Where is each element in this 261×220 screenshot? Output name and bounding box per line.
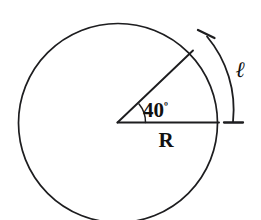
- geometry-figure-svg: 40º R ℓ: [0, 0, 261, 220]
- arc-length-label: ℓ: [235, 57, 245, 82]
- radius-label: R: [158, 128, 174, 152]
- circle-arc-diagram: 40º R ℓ: [0, 0, 261, 220]
- angle-degree-symbol: º: [164, 99, 168, 113]
- angle-value: 40: [143, 98, 164, 122]
- angle-label: 40º: [143, 98, 168, 122]
- exterior-arc-length-curve: [207, 37, 234, 123]
